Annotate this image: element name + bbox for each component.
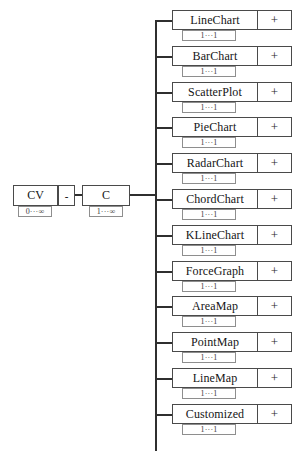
chart-type-node-cardinality-label: 1···1 <box>201 318 218 326</box>
root-node-c-label: C <box>102 188 110 203</box>
expand-node-plus-icon[interactable]: + <box>257 226 291 244</box>
expand-node-plus-icon[interactable]: + <box>257 11 291 29</box>
connector-dash-to-c <box>75 194 82 196</box>
chart-type-node-cardinality-label: 1···1 <box>201 354 218 362</box>
chart-type-node-cardinality: 1···1 <box>182 352 236 363</box>
chart-type-node-cardinality: 1···1 <box>182 424 236 435</box>
connector-trunk-to-node <box>157 306 172 308</box>
root-node-c-cardinality-label: 1···∞ <box>97 208 116 216</box>
chart-type-node[interactable]: PointMap+ <box>172 332 292 352</box>
chart-type-node-cardinality: 1···1 <box>182 316 236 327</box>
chart-type-node-cardinality: 1···1 <box>182 209 236 220</box>
chart-type-node-cardinality: 1···1 <box>182 245 236 256</box>
chart-type-node-cardinality: 1···1 <box>182 66 236 77</box>
root-node-cv-cardinality: 0···∞ <box>18 206 52 217</box>
chart-type-node-cardinality-label: 1···1 <box>201 32 218 40</box>
connector-trunk-to-node <box>157 163 172 165</box>
chart-type-node-label: LineMap <box>173 369 257 387</box>
chart-type-node-cardinality-label: 1···1 <box>201 68 218 76</box>
chart-type-node-label: ChordChart <box>173 190 257 208</box>
chart-type-node[interactable]: LineMap+ <box>172 368 292 388</box>
expand-node-plus-icon[interactable]: + <box>257 297 291 315</box>
connector-trunk-to-node <box>157 342 172 344</box>
chart-type-node-label: Customized <box>173 405 257 423</box>
chart-type-node-cardinality: 1···1 <box>182 30 236 41</box>
chart-type-node-label: KLineChart <box>173 226 257 244</box>
connector-trunk-to-node <box>157 92 172 94</box>
chart-type-node-label: PointMap <box>173 333 257 351</box>
connector-trunk-to-node <box>157 378 172 380</box>
chart-type-node[interactable]: ForceGraph+ <box>172 261 292 281</box>
chart-type-node-label: BarChart <box>173 47 257 65</box>
root-node-c[interactable]: C <box>82 185 130 206</box>
expand-node-plus-icon[interactable]: + <box>257 405 291 423</box>
connector-trunk-to-node <box>157 199 172 201</box>
root-node-cv-cardinality-label: 0···∞ <box>26 208 45 216</box>
expand-node-plus-icon[interactable]: + <box>257 154 291 172</box>
chart-type-node[interactable]: KLineChart+ <box>172 225 292 245</box>
chart-type-node-cardinality: 1···1 <box>182 137 236 148</box>
chart-type-node-cardinality-label: 1···1 <box>201 175 218 183</box>
connector-c-to-trunk <box>130 194 157 196</box>
expand-node-plus-icon[interactable]: + <box>257 83 291 101</box>
chart-type-node-cardinality: 1···1 <box>182 388 236 399</box>
chart-type-node[interactable]: AreaMap+ <box>172 296 292 316</box>
chart-type-node[interactable]: LineChart+ <box>172 10 292 30</box>
chart-type-node-label: RadarChart <box>173 154 257 172</box>
chart-type-node[interactable]: ChordChart+ <box>172 189 292 209</box>
chart-type-node-cardinality-label: 1···1 <box>201 426 218 434</box>
root-node-c-cardinality: 1···∞ <box>89 206 123 217</box>
connector-trunk-to-node <box>157 271 172 273</box>
connector-trunk-to-node <box>157 20 172 22</box>
connector-trunk-to-node <box>157 414 172 416</box>
chart-type-node[interactable]: ScatterPlot+ <box>172 82 292 102</box>
chart-type-node-cardinality-label: 1···1 <box>201 104 218 112</box>
chart-type-node-cardinality: 1···1 <box>182 173 236 184</box>
chart-type-node-cardinality: 1···1 <box>182 102 236 113</box>
expand-node-plus-icon[interactable]: + <box>257 262 291 280</box>
chart-type-node[interactable]: RadarChart+ <box>172 153 292 173</box>
relation-dash-box: - <box>58 185 75 206</box>
expand-node-plus-icon[interactable]: + <box>257 369 291 387</box>
chart-type-node-cardinality-label: 1···1 <box>201 283 218 291</box>
expand-node-plus-icon[interactable]: + <box>257 333 291 351</box>
chart-type-node[interactable]: PieChart+ <box>172 117 292 137</box>
chart-type-node[interactable]: BarChart+ <box>172 46 292 66</box>
expand-node-plus-icon[interactable]: + <box>257 47 291 65</box>
root-node-cv[interactable]: CV <box>13 185 58 206</box>
connector-trunk-to-node <box>157 127 172 129</box>
chart-type-node[interactable]: Customized+ <box>172 404 292 424</box>
chart-type-node-cardinality-label: 1···1 <box>201 139 218 147</box>
chart-type-node-label: AreaMap <box>173 297 257 315</box>
root-node-cv-label: CV <box>27 188 44 203</box>
chart-type-node-label: PieChart <box>173 118 257 136</box>
chart-type-node-cardinality-label: 1···1 <box>201 390 218 398</box>
chart-type-node-label: ScatterPlot <box>173 83 257 101</box>
relation-dash-label: - <box>65 190 69 202</box>
chart-type-node-cardinality: 1···1 <box>182 281 236 292</box>
expand-node-plus-icon[interactable]: + <box>257 190 291 208</box>
chart-type-node-label: LineChart <box>173 11 257 29</box>
connector-trunk-to-node <box>157 56 172 58</box>
chart-type-node-label: ForceGraph <box>173 262 257 280</box>
expand-node-plus-icon[interactable]: + <box>257 118 291 136</box>
connector-trunk-to-node <box>157 235 172 237</box>
chart-type-node-cardinality-label: 1···1 <box>201 247 218 255</box>
diagram-canvas: CV 0···∞ - C 1···∞ LineChart+1···1BarCha… <box>0 0 301 470</box>
chart-type-node-cardinality-label: 1···1 <box>201 211 218 219</box>
